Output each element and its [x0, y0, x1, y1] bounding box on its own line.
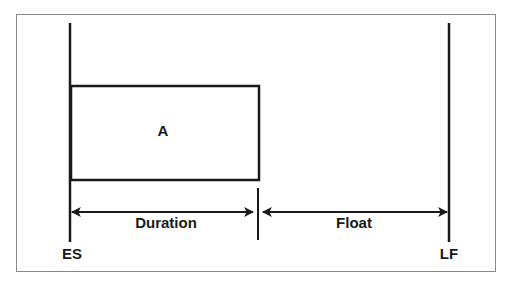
float-label: Float	[336, 214, 372, 231]
activity-label: A	[158, 122, 169, 139]
late-finish-label: LF	[440, 245, 458, 262]
schedule-float-diagram: A Duration Float ES LF	[0, 0, 511, 285]
duration-label: Duration	[135, 214, 197, 231]
early-start-label: ES	[62, 245, 82, 262]
